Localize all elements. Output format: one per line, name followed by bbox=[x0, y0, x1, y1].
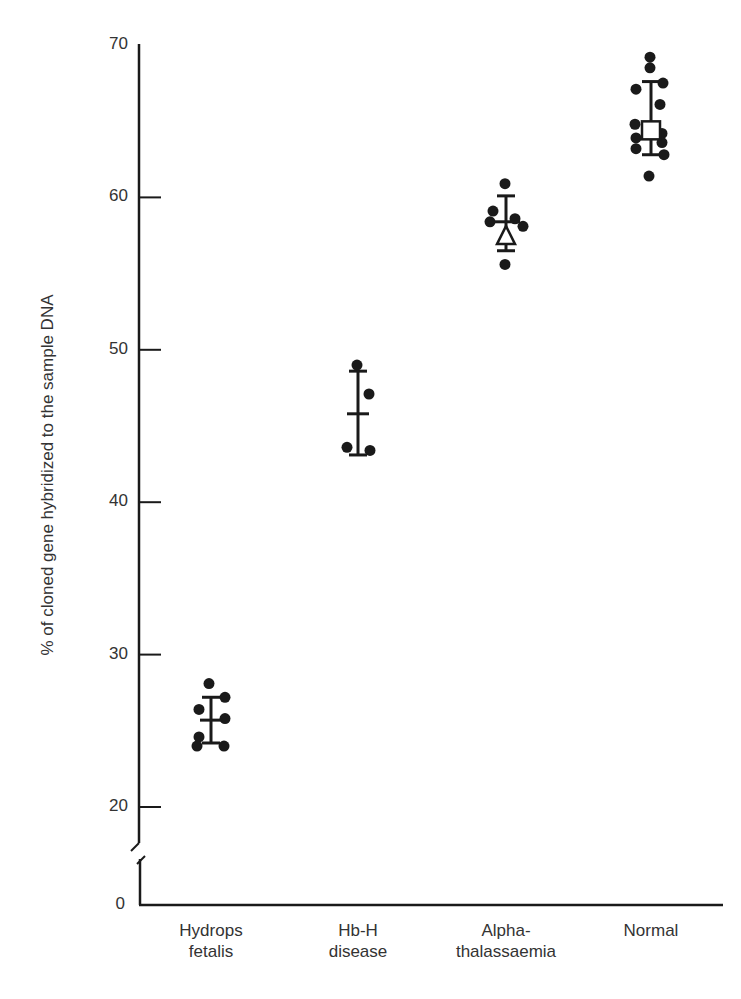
x-category-label: Hydropsfetalis bbox=[131, 920, 291, 962]
y-tick-label: 30 bbox=[88, 644, 128, 664]
x-category-label: Normal bbox=[571, 920, 731, 941]
y-tick-label: 0 bbox=[85, 894, 125, 914]
category-label-line: disease bbox=[278, 941, 438, 962]
data-point bbox=[342, 442, 353, 453]
series-group bbox=[630, 52, 670, 182]
category-label-line: Hydrops bbox=[131, 920, 291, 941]
data-point bbox=[194, 704, 205, 715]
data-point bbox=[220, 713, 231, 724]
axis-break-mark bbox=[131, 843, 139, 851]
data-point bbox=[220, 692, 231, 703]
y-tick-label: 60 bbox=[88, 186, 128, 206]
data-point bbox=[500, 259, 511, 270]
data-point bbox=[365, 445, 376, 456]
mean-marker-square bbox=[642, 121, 660, 139]
category-label-line: Hb-H bbox=[278, 920, 438, 941]
data-point bbox=[658, 78, 669, 89]
y-tick-label: 70 bbox=[88, 34, 128, 54]
data-point bbox=[192, 741, 203, 752]
data-point bbox=[655, 99, 666, 110]
data-point bbox=[204, 678, 215, 689]
data-point bbox=[645, 52, 656, 63]
category-label-line: thalassaemia bbox=[426, 941, 586, 962]
x-category-label: Alpha-thalassaemia bbox=[426, 920, 586, 962]
x-category-label: Hb-Hdisease bbox=[278, 920, 438, 962]
data-point bbox=[631, 132, 642, 143]
axes bbox=[131, 44, 723, 905]
y-axis-title: % of cloned gene hybridized to the sampl… bbox=[38, 295, 58, 656]
category-label-line: fetalis bbox=[131, 941, 291, 962]
mean-marker-triangle bbox=[497, 226, 515, 244]
series-group bbox=[485, 178, 529, 270]
y-tick-label: 20 bbox=[88, 796, 128, 816]
data-point bbox=[631, 143, 642, 154]
category-label-line: Normal bbox=[571, 920, 731, 941]
series-group bbox=[342, 360, 376, 456]
series-group bbox=[192, 678, 231, 751]
data-point bbox=[194, 731, 205, 742]
y-tick-label: 40 bbox=[88, 491, 128, 511]
data-point bbox=[488, 206, 499, 217]
data-point bbox=[364, 388, 375, 399]
plot-area bbox=[192, 52, 670, 752]
data-point bbox=[631, 84, 642, 95]
category-label-line: Alpha- bbox=[426, 920, 586, 941]
data-point bbox=[645, 62, 656, 73]
data-point bbox=[219, 741, 230, 752]
data-point bbox=[630, 119, 641, 130]
data-point bbox=[644, 171, 655, 182]
data-point bbox=[659, 149, 670, 160]
y-tick-label: 50 bbox=[88, 339, 128, 359]
data-point bbox=[500, 178, 511, 189]
data-point bbox=[352, 360, 363, 371]
